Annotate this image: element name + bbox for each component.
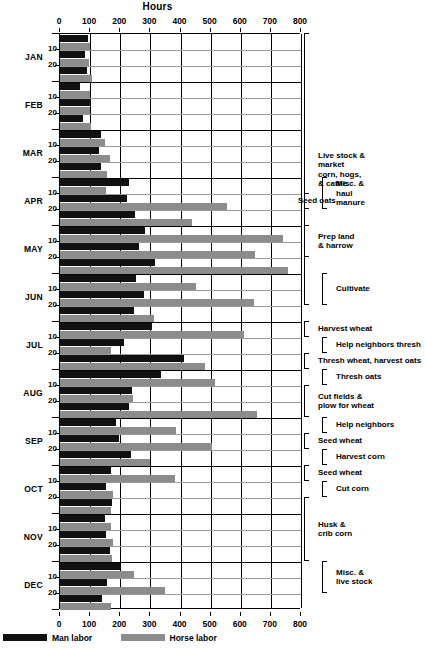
row-separator [60,578,301,579]
bar-horse-labor [60,315,154,322]
period-tick [55,545,59,546]
bar-man-labor [60,291,144,298]
period-tick [55,65,59,66]
bar-horse-labor [60,219,192,226]
row-separator [60,322,301,323]
legend-label-man-labor: Man labor [52,633,92,643]
x-tick-mark-700 [270,612,271,616]
row-separator [60,514,301,515]
row-separator [60,66,301,67]
month-label-nov: NOV [13,532,43,542]
period-tick [55,145,59,146]
month-label-feb: FEB [13,100,43,110]
bar-man-labor [60,355,184,362]
period-tick [55,305,59,306]
x-tick-mark-300 [149,612,150,616]
bracket [304,353,309,369]
bracket [304,433,309,449]
x-tick-mark-500 [210,28,211,32]
bar-horse-labor [60,395,133,402]
row-separator [60,178,301,179]
bracket [322,449,327,465]
bar-horse-labor [60,379,215,386]
row-separator [60,290,301,291]
annotation-label: Harvest wheat [318,324,372,334]
legend-item-man-labor: Man labor [3,632,92,643]
period-tick [55,257,59,258]
bar-man-labor [60,403,129,410]
bar-horse-labor [60,507,111,514]
row-separator [60,530,301,531]
row-separator [60,50,301,51]
x-tick-label-100: 100 [82,16,96,26]
bar-man-labor [60,227,145,234]
row-separator [60,546,301,547]
x-tick-label-700: 700 [263,619,277,629]
bar-horse-labor [60,427,176,434]
period-tick [55,401,59,402]
period-tick [55,497,59,498]
bar-horse-labor [60,331,244,338]
bar-man-labor [60,339,124,346]
month-tick-apr [52,177,59,178]
x-tick-label-400: 400 [172,619,186,629]
bar-horse-labor [60,91,90,98]
bar-horse-labor [60,187,106,194]
annotation-label: Seed oats [298,196,336,206]
bar-horse-labor [60,523,111,530]
row-separator [60,498,301,499]
x-tick-label-200: 200 [112,16,126,26]
bar-man-labor [60,435,119,442]
month-label-dec: DEC [13,580,43,590]
bar-man-labor [60,323,152,330]
period-tick [55,241,59,242]
x-tick-label-300: 300 [142,16,156,26]
row-separator [60,274,301,275]
bar-horse-labor [60,555,112,562]
x-tick-mark-600 [240,28,241,32]
bar-man-labor [60,147,99,154]
bar-horse-labor [60,347,111,354]
bar-horse-labor [60,459,150,466]
bar-horse-labor [60,411,257,418]
bar-man-labor [60,115,83,122]
month-label-jul: JUL [13,340,43,350]
bar-man-labor [60,195,127,202]
row-separator [60,594,301,595]
x-tick-mark-100 [89,612,90,616]
row-separator [60,258,301,259]
bar-man-labor [60,35,88,42]
month-tick-jun [52,273,59,274]
x-tick-label-600: 600 [233,16,247,26]
month-label-aug: AUG [13,388,43,398]
x-tick-mark-200 [119,612,120,616]
bar-horse-labor [60,587,165,594]
legend-label-horse-labor: Horse labor [170,633,217,643]
x-tick-mark-800 [300,28,301,32]
x-tick-mark-600 [240,612,241,616]
bar-horse-labor [60,107,90,114]
bar-horse-labor [60,443,212,450]
bracket [322,481,327,497]
bracket [304,497,309,561]
month-label-may: MAY [13,244,43,254]
annotation-label: Cut corn [336,484,369,494]
x-tick-label-200: 200 [112,619,126,629]
axis-end-tick [52,609,59,610]
row-separator [60,402,301,403]
x-tick-mark-400 [180,28,181,32]
bar-man-labor [60,387,132,394]
month-tick-may [52,225,59,226]
period-tick [55,289,59,290]
chart-legend: Man labor Horse labor [3,632,243,643]
period-tick [55,353,59,354]
bar-horse-labor [60,59,89,66]
row-separator [60,82,301,83]
x-tick-mark-700 [270,28,271,32]
x-tick-label-700: 700 [263,16,277,26]
annotation-label: Help neighbors [336,420,394,430]
bar-man-labor [60,211,135,218]
row-separator [60,386,301,387]
bar-man-labor [60,547,110,554]
x-tick-mark-0 [59,28,60,32]
